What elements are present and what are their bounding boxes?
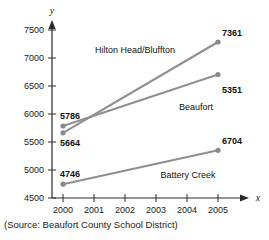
value-label-beaufort-2000: 5786 bbox=[60, 111, 80, 121]
series-label-battery-creek: Battery Creek bbox=[160, 170, 216, 180]
data-point-battery-creek-2000 bbox=[60, 182, 65, 187]
y-tick-label-6000: 6000 bbox=[24, 109, 44, 119]
value-label-hilton-head-bluffton-2000: 5664 bbox=[60, 138, 80, 148]
x-tick-label-2005: 2005 bbox=[208, 205, 228, 215]
value-label-battery-creek-2000: 4746 bbox=[60, 169, 80, 179]
x-tick-label-2003: 2003 bbox=[146, 205, 166, 215]
series-line-beaufort bbox=[63, 75, 218, 126]
series-label-beaufort: Beaufort bbox=[179, 102, 214, 112]
data-point-hilton-head-bluffton-2000 bbox=[60, 130, 65, 135]
value-label-battery-creek-2005: 6704 bbox=[222, 136, 242, 146]
chart-svg: 7500 7000 6500 6000 5500 5000 4500 y x 2… bbox=[0, 0, 269, 240]
y-tick-label-5500: 5500 bbox=[24, 137, 44, 147]
series-label-hilton-head-bluffton: Hilton Head/Bluffton bbox=[95, 45, 175, 55]
y-tick-label-5000: 5000 bbox=[24, 165, 44, 175]
y-tick-label-7000: 7000 bbox=[24, 53, 44, 63]
x-tick-label-2001: 2001 bbox=[84, 205, 104, 215]
x-tick-label-2004: 2004 bbox=[177, 205, 197, 215]
x-axis-arrow bbox=[240, 194, 249, 201]
x-axis-label: x bbox=[255, 192, 261, 203]
y-tick-label-7500: 7500 bbox=[24, 25, 44, 35]
y-axis-arrow bbox=[48, 20, 55, 29]
data-point-battery-creek-2005 bbox=[215, 148, 220, 153]
y-tick-label-6500: 6500 bbox=[24, 81, 44, 91]
x-tick-label-2002: 2002 bbox=[115, 205, 135, 215]
y-tick-label-4500: 4500 bbox=[24, 193, 44, 203]
line-chart-figure: 7500 7000 6500 6000 5500 5000 4500 y x 2… bbox=[0, 0, 269, 240]
x-tick-label-2000: 2000 bbox=[53, 205, 73, 215]
value-label-beaufort-2005: 5351 bbox=[222, 85, 242, 95]
value-label-hilton-head-bluffton-2005: 7361 bbox=[222, 28, 242, 38]
data-point-hilton-head-bluffton-2005 bbox=[215, 39, 220, 44]
data-point-beaufort-2005 bbox=[215, 72, 220, 77]
source-note: (Source: Beaufort County School District… bbox=[4, 219, 178, 230]
data-point-beaufort-2000 bbox=[60, 123, 65, 128]
y-axis-label: y bbox=[49, 5, 55, 16]
